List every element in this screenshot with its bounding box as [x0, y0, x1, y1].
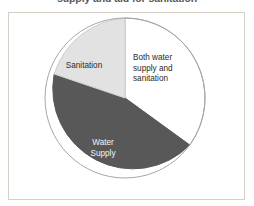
pie-label-both-water-supply-and-sanitation: Both water supply and sanitation	[133, 53, 191, 85]
pie-chart: Sanitation Both water supply and sanitat…	[0, 0, 254, 206]
pie-chart-svg	[0, 0, 254, 206]
pie-label-sanitation: Sanitation	[56, 61, 112, 72]
pie-label-water-supply: Water Supply	[76, 138, 130, 159]
